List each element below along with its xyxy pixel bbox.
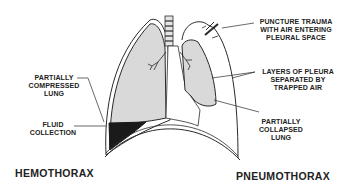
label-line: WITH AIR ENTERING [254, 26, 338, 34]
trachea [165, 16, 173, 46]
label-line: LUNG [256, 134, 306, 142]
label-line: FLUID [24, 121, 82, 129]
label-line: PUNCTURE TRAUMA [254, 18, 338, 26]
label-line: SEPARATED BY [256, 76, 340, 84]
pneumothorax-title: PNEUMOTHORAX [236, 170, 330, 182]
label-fluid-collection: FLUID COLLECTION [24, 121, 82, 137]
label-line: LUNG [26, 90, 82, 98]
label-layers-of-pleura: LAYERS OF PLEURA SEPARATED BY TRAPPED AI… [256, 68, 340, 92]
label-line: LAYERS OF PLEURA [256, 68, 340, 76]
label-line: COLLECTION [24, 129, 82, 137]
label-line: PLEURAL SPACE [254, 34, 338, 42]
label-line: TRAPPED AIR [256, 84, 340, 92]
hemothorax-title: HEMOTHORAX [15, 167, 94, 179]
label-line: COLLAPSED [256, 126, 306, 134]
label-puncture-trauma: PUNCTURE TRAUMA WITH AIR ENTERING PLEURA… [254, 18, 338, 42]
label-partially-collapsed-lung: PARTIALLY COLLAPSED LUNG [256, 118, 306, 142]
label-line: COMPRESSED [26, 82, 82, 90]
label-partially-compressed-lung: PARTIALLY COMPRESSED LUNG [26, 74, 82, 98]
label-line: PARTIALLY [26, 74, 82, 82]
label-line: PARTIALLY [256, 118, 306, 126]
